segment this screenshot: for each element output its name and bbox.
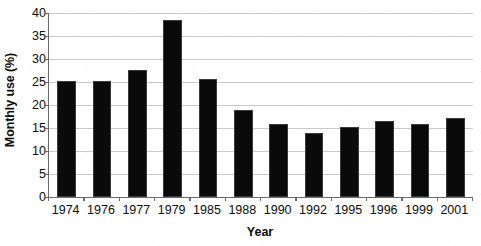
bars-group [49,13,473,197]
x-tick-mark [472,197,473,201]
y-tick-label: 35 [20,30,46,42]
x-tick-label: 1988 [228,203,256,217]
x-tick-label: 1992 [299,203,327,217]
x-tick-label: 1979 [158,203,186,217]
x-tick-label: 1999 [405,203,433,217]
x-tick-mark [331,197,332,201]
x-tick-mark [401,197,402,201]
y-tick-label: 30 [20,53,46,65]
x-axis-tick-labels: 1974197619771979198519881990199219951996… [48,203,472,219]
x-tick-mark [295,197,296,201]
x-tick-mark [119,197,120,201]
bar [199,79,217,197]
x-axis-title: Year [48,225,472,239]
x-tick-mark [366,197,367,201]
bar [128,70,146,197]
y-tick-label: 15 [20,122,46,134]
y-axis-title: Monthly use (%) [0,0,20,200]
y-tick-label: 0 [20,191,46,203]
y-tick-label: 20 [20,99,46,111]
x-tick-label: 1985 [193,203,221,217]
x-tick-label: 2001 [440,203,468,217]
bar [340,127,358,197]
bar [446,118,464,197]
x-tick-label: 1977 [122,203,150,217]
y-tick-label: 5 [20,168,46,180]
x-tick-label: 1974 [52,203,80,217]
x-tick-label: 1996 [370,203,398,217]
y-axis-title-label: Monthly use (%) [3,53,17,147]
bar-chart-figure: Monthly use (%) 0510152025303540 1974197… [0,0,481,246]
x-tick-mark [83,197,84,201]
x-tick-mark [260,197,261,201]
y-tick-label: 10 [20,145,46,157]
x-tick-label: 1990 [264,203,292,217]
y-tick-label: 40 [20,7,46,19]
y-axis-tick-labels: 0510152025303540 [20,0,46,210]
plot-area [48,13,473,198]
bar [163,20,181,197]
x-tick-mark [437,197,438,201]
bar [234,110,252,197]
bar [305,133,323,197]
x-tick-label: 1976 [87,203,115,217]
x-tick-mark [154,197,155,201]
x-tick-mark [48,197,49,201]
bar [57,81,75,197]
x-tick-label: 1995 [334,203,362,217]
x-axis-tick-marks [48,197,473,202]
x-tick-mark [189,197,190,201]
bar [269,124,287,197]
bar [411,124,429,197]
bar [93,81,111,197]
x-tick-mark [225,197,226,201]
bar [375,121,393,197]
y-tick-label: 25 [20,76,46,88]
